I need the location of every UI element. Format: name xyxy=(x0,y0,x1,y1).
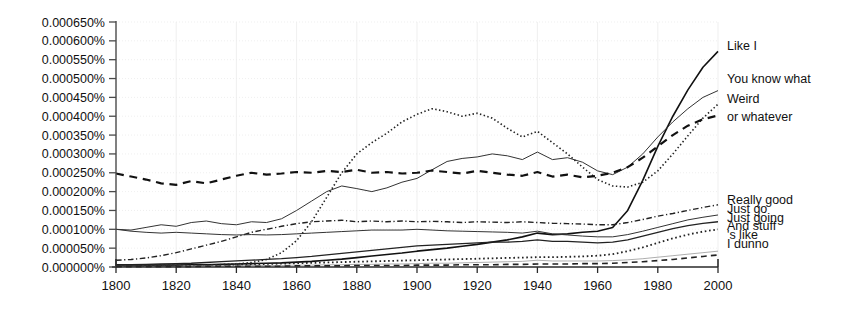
x-axis-label: 1940 xyxy=(523,278,552,293)
x-axis-label: 2000 xyxy=(704,278,733,293)
x-axis-label: 1820 xyxy=(162,278,191,293)
x-axis-label: 1920 xyxy=(463,278,492,293)
series-label-i-dunno: I dunno xyxy=(727,237,769,251)
x-axis-label: 1980 xyxy=(643,278,672,293)
x-axis-label: 1800 xyxy=(102,278,131,293)
y-axis-label: 0.000200% xyxy=(42,185,105,199)
x-axis-label: 1840 xyxy=(222,278,251,293)
chart-canvas: 0.000000%0.000050%0.000100%0.000150%0.00… xyxy=(0,0,847,309)
series-label-or-whatever: or whatever xyxy=(727,110,792,124)
y-axis-label: 0.000550% xyxy=(42,53,105,67)
y-axis-label: 0.000500% xyxy=(42,72,105,86)
y-axis-label: 0.000150% xyxy=(42,204,105,218)
y-axis-label: 0.000350% xyxy=(42,129,105,143)
y-axis-label: 0.000650% xyxy=(42,16,105,30)
ngram-frequency-chart: 0.000000%0.000050%0.000100%0.000150%0.00… xyxy=(0,0,847,309)
series-label-weird: Weird xyxy=(727,92,759,106)
y-axis-label: 0.000000% xyxy=(42,261,105,275)
y-axis-label: 0.000450% xyxy=(42,91,105,105)
y-axis-label: 0.000050% xyxy=(42,242,105,256)
y-axis-label: 0.000600% xyxy=(42,34,105,48)
y-axis-label: 0.000400% xyxy=(42,110,105,124)
x-axis-label: 1900 xyxy=(403,278,432,293)
y-axis-label: 0.000100% xyxy=(42,223,105,237)
y-axis-label: 0.000250% xyxy=(42,166,105,180)
x-axis-label: 1960 xyxy=(583,278,612,293)
series-label-you-know-what: You know what xyxy=(727,72,811,86)
series-label-like-i: Like I xyxy=(727,39,757,53)
x-axis-label: 1860 xyxy=(282,278,311,293)
y-axis-label: 0.000300% xyxy=(42,147,105,161)
x-axis-label: 1880 xyxy=(342,278,371,293)
